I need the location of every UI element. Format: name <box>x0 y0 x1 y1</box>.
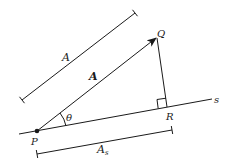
vector-A-arrow <box>37 38 156 131</box>
perpendicular-QR <box>157 38 167 107</box>
line-s <box>19 99 212 134</box>
point-Q-label: Q <box>157 28 165 39</box>
vector-label-A: A <box>88 70 98 83</box>
line-s-label: s <box>214 94 219 105</box>
point-P-dot <box>35 129 40 134</box>
right-angle-marker <box>157 98 166 108</box>
point-P-label: P <box>30 136 38 147</box>
length-label-A: A <box>61 51 70 64</box>
projection-label-As: As <box>96 143 109 157</box>
point-R-label: R <box>165 111 174 122</box>
length-bar-A <box>20 10 138 103</box>
projection-label-main: A <box>96 143 105 156</box>
angle-label-theta: θ <box>66 112 72 123</box>
projection-label-subscript: s <box>105 149 109 157</box>
vector-projection-diagram: A s A θ P Q R As <box>0 0 230 165</box>
